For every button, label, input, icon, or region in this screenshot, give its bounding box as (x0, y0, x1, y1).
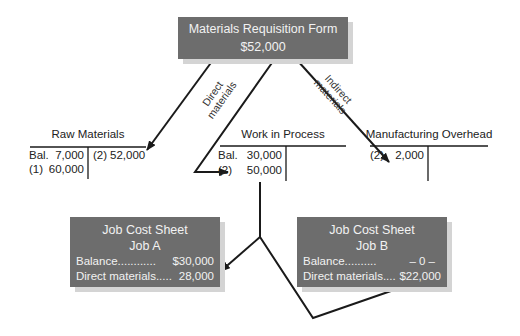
job-cost-sheet-b: Job Cost Sheet Job B Balance .......... … (297, 217, 447, 287)
work-in-process-title: Work in Process (220, 128, 346, 140)
requisition-amount: $52,000 (178, 38, 348, 56)
job-cost-sheet-a: Job Cost Sheet Job A Balance ...........… (70, 217, 220, 287)
raw-materials-title: Raw Materials (30, 128, 146, 140)
job-a-direct-materials-row: Direct materials ..... 28,000 (76, 269, 214, 284)
manufacturing-overhead-title: Manufacturing Overhead (364, 128, 494, 140)
requisition-title: Materials Requisition Form (178, 20, 348, 38)
job-b-balance-row: Balance .......... – 0 – (303, 254, 441, 269)
materials-requisition-box: Materials Requisition Form $52,000 (178, 17, 348, 59)
job-b-direct-materials-row: Direct materials .... $22,000 (303, 269, 441, 284)
arrow-to-job-a (221, 237, 260, 271)
job-a-balance-row: Balance ............ $30,000 (76, 254, 214, 269)
